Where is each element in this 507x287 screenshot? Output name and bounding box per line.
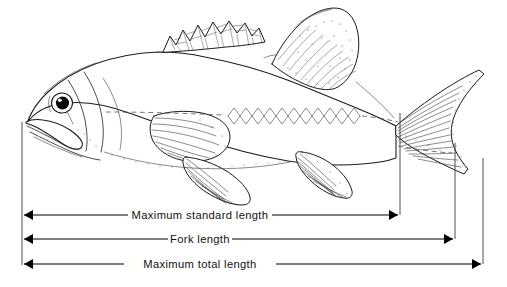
- forked-caudal-fin: [396, 70, 484, 174]
- pectoral-fin-outline: [150, 111, 230, 161]
- pectoral-fin: [150, 111, 230, 162]
- fish-diagram-svg: Maximum standard length Fork length Maxi…: [0, 0, 507, 287]
- pelvic-fin-outline: [183, 157, 250, 205]
- soft-dorsal-outline: [272, 8, 359, 90]
- standard-length-label: Maximum standard length: [132, 209, 269, 221]
- pelvic-fin: [183, 157, 250, 205]
- dorsal-contour: [264, 55, 276, 58]
- fish-illustration: [26, 8, 484, 205]
- spiny-dorsal-fin: [163, 21, 265, 52]
- fish-eye: [52, 93, 73, 113]
- fish-measurement-figure: Maximum standard length Fork length Maxi…: [0, 0, 507, 287]
- soft-dorsal-fin: [272, 8, 359, 90]
- fork-length-label: Fork length: [170, 233, 230, 245]
- total-length-label: Maximum total length: [143, 258, 256, 270]
